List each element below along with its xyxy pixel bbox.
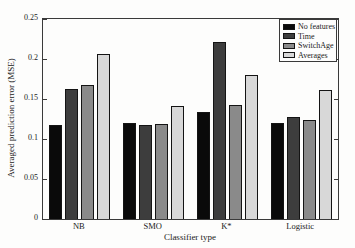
legend-label: Time [298,32,315,41]
y-tick-mark [43,219,47,220]
bar-logistic-averages [319,90,332,219]
y-tick-mark [43,179,47,180]
y-tick-mark [334,179,338,180]
legend-swatch-icon [283,24,295,30]
legend-label: SwitchAge [298,41,334,50]
legend-item-averages: Averages [283,51,336,61]
bar-logistic-no-features [271,123,284,219]
legend-label: No features [298,22,335,31]
x-axis-label: Classifier type [130,232,250,242]
y-tick-mark [43,59,47,60]
y-tick-label: 0.05 [12,174,38,182]
bar-k-time [213,42,226,219]
bar-chart-figure: Averaged prediction error (MSE) Classifi… [0,0,355,248]
bar-smo-averages [171,106,184,219]
legend-item-time: Time [283,32,336,42]
bar-smo-switchage [155,124,168,219]
y-tick-mark [43,19,47,20]
legend-swatch-icon [283,33,295,39]
y-tick-mark [334,219,338,220]
bar-logistic-time [287,117,300,219]
bar-smo-no-features [123,123,136,219]
y-tick-mark [334,99,338,100]
y-tick-label: 0.1 [12,134,38,142]
bar-nb-switchage [81,85,94,219]
legend-label: Averages [298,51,328,60]
x-tick-label-smo: SMO [123,222,183,231]
legend-swatch-icon [283,52,295,58]
y-tick-mark [43,139,47,140]
y-tick-label: 0 [12,214,38,222]
bar-k-switchage [229,105,242,219]
bar-nb-no-features [49,125,62,219]
y-axis-label: Averaged prediction error (MSE) [5,18,17,218]
y-tick-label: 0.25 [12,14,38,22]
bar-logistic-switchage [303,120,316,219]
y-tick-mark [43,99,47,100]
x-tick-label-logistic: Logistic [270,222,330,231]
x-tick-label-nb: NB [49,222,109,231]
bar-smo-time [139,125,152,219]
legend-item-no-features: No features [283,22,336,32]
bar-nb-time [65,89,78,219]
bar-k-averages [245,75,258,219]
legend-swatch-icon [283,43,295,49]
y-tick-mark [334,139,338,140]
x-tick-label-k: K* [196,222,256,231]
y-tick-label: 0.15 [12,94,38,102]
y-tick-label: 0.2 [12,54,38,62]
bar-k-no-features [197,112,210,219]
legend-item-switchage: SwitchAge [283,41,336,51]
bar-nb-averages [97,54,110,219]
legend: No featuresTimeSwitchAgeAverages [279,19,337,62]
